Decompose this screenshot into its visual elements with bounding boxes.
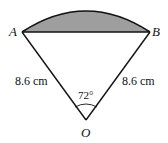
label-a: A — [8, 24, 17, 39]
angle-arc — [75, 104, 97, 107]
radius-label-right: 8.6 cm — [122, 74, 155, 88]
label-o: O — [81, 125, 91, 140]
angle-label: 72° — [78, 89, 93, 101]
sector-diagram: A B O 8.6 cm 8.6 cm 72° — [0, 0, 168, 143]
label-b: B — [152, 24, 160, 39]
radius-label-left: 8.6 cm — [15, 74, 48, 88]
